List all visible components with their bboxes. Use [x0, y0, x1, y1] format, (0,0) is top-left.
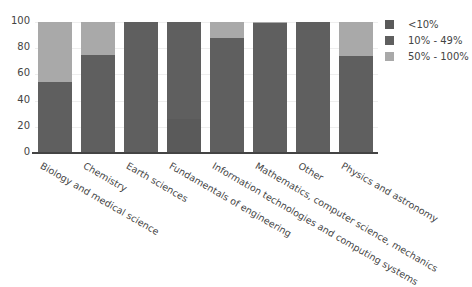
legend-swatch-icon — [385, 20, 394, 29]
y-tick-label: 80 — [0, 41, 30, 52]
y-tick-label: 20 — [0, 120, 30, 131]
legend: <10%10% - 49%50% - 100% — [385, 17, 469, 65]
bar-segment — [339, 22, 373, 56]
bar-segment — [296, 22, 330, 153]
bar-physics-and-astronomy — [339, 22, 373, 153]
y-tick-label: 0 — [0, 146, 30, 157]
y-tick-label: 40 — [0, 94, 30, 105]
legend-label: 10% - 49% — [408, 35, 462, 46]
x-axis-line — [32, 152, 378, 154]
bar-segment — [124, 22, 158, 153]
bar-segment — [38, 82, 72, 153]
bar-segment — [210, 22, 244, 38]
bar-segment — [81, 55, 115, 153]
legend-label: <10% — [408, 19, 439, 30]
legend-item[interactable]: <10% — [385, 17, 469, 31]
x-tick-label: Other — [297, 160, 326, 183]
plot-area — [35, 22, 378, 153]
y-tick-label: 60 — [0, 67, 30, 78]
legend-item[interactable]: 50% - 100% — [385, 49, 469, 63]
bar-segment — [210, 38, 244, 153]
bar-segment — [253, 22, 287, 23]
legend-swatch-icon — [385, 36, 394, 45]
y-tick-label: 100 — [0, 15, 30, 26]
bar-segment — [167, 22, 201, 119]
bar-fundamentals-of-engineering — [167, 22, 201, 153]
bar-segment — [167, 119, 201, 153]
bar-other — [296, 22, 330, 153]
bar-segment — [81, 22, 115, 55]
bar-information-technologies-and-computing-systems — [210, 22, 244, 153]
bar-biology-and-medical-science — [38, 22, 72, 153]
bar-segment — [339, 56, 373, 153]
legend-item[interactable]: 10% - 49% — [385, 33, 469, 47]
bar-segment — [38, 22, 72, 82]
bar-chemistry — [81, 22, 115, 153]
legend-swatch-icon — [385, 52, 394, 61]
legend-label: 50% - 100% — [408, 51, 469, 62]
bar-earth-sciences — [124, 22, 158, 153]
bar-mathematics-computer-science-mechanics — [253, 22, 287, 153]
bar-segment — [253, 23, 287, 153]
x-tick-label: Mathematics, computer science, mechanics — [254, 160, 440, 274]
